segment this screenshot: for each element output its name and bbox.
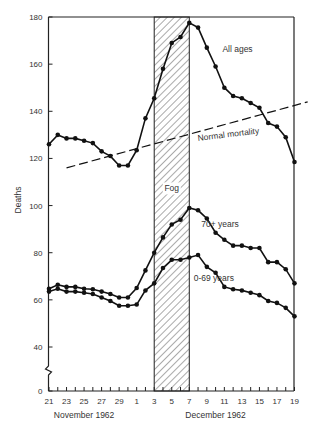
data-point — [108, 299, 113, 304]
data-point — [55, 133, 60, 138]
data-point — [169, 41, 174, 46]
data-point — [134, 148, 139, 153]
y-tick-label: 140 — [29, 107, 43, 116]
data-point — [91, 141, 96, 146]
data-point — [292, 281, 297, 286]
data-point — [292, 314, 297, 319]
data-point — [248, 246, 253, 251]
data-point — [266, 260, 271, 265]
fog-shaded-region — [154, 17, 189, 391]
x-axis-group-labels: November 1962December 1962 — [54, 410, 246, 420]
data-point — [231, 243, 236, 248]
x-tick-label: 1 — [134, 397, 139, 406]
data-point — [266, 121, 271, 126]
data-point — [73, 285, 78, 290]
x-tick-label: 9 — [205, 397, 210, 406]
fog-band — [154, 17, 189, 391]
data-point — [73, 289, 78, 294]
data-point — [275, 124, 280, 129]
data-point — [143, 288, 148, 293]
x-tick-label: 13 — [237, 397, 246, 406]
data-point — [91, 287, 96, 292]
deaths-line-chart: 0406080100120140160180 21232527291357911… — [0, 0, 314, 429]
data-point — [240, 96, 245, 101]
y-tick-label: 40 — [34, 343, 43, 352]
data-point — [47, 142, 52, 147]
data-point — [248, 101, 253, 106]
data-point — [117, 295, 122, 300]
x-tick-label: 15 — [255, 397, 264, 406]
x-tick-label: 11 — [220, 397, 229, 406]
data-point — [152, 281, 157, 286]
label-normal-mortality: Normal mortality — [197, 125, 260, 143]
label-fog: Fog — [164, 183, 179, 193]
data-point — [99, 289, 104, 294]
data-point — [275, 301, 280, 306]
left-axis-with-break — [46, 17, 52, 391]
y-tick-label: 160 — [29, 60, 43, 69]
data-point — [82, 138, 87, 143]
data-point — [64, 289, 69, 294]
y-tick-label: 100 — [29, 202, 43, 211]
x-tick-label: 23 — [62, 397, 71, 406]
data-point — [178, 257, 183, 262]
data-point — [143, 116, 148, 121]
data-point — [82, 290, 87, 295]
y-tick-label: 80 — [34, 249, 43, 258]
data-point — [187, 206, 192, 211]
data-point — [283, 267, 288, 272]
y-tick-label: 60 — [34, 296, 43, 305]
data-point — [178, 35, 183, 40]
data-point — [126, 295, 131, 300]
data-point — [248, 290, 253, 295]
x-tick-label: 27 — [97, 397, 106, 406]
label-0-69-years: 0-69 years — [194, 273, 234, 283]
data-point — [64, 285, 69, 290]
data-point — [126, 303, 131, 308]
label-70-years: 70+ years — [201, 219, 239, 229]
data-point — [213, 230, 218, 235]
y-axis-title: Deaths — [13, 187, 23, 214]
data-point — [178, 217, 183, 222]
data-point — [152, 250, 157, 255]
data-point — [99, 295, 104, 300]
data-point — [134, 302, 139, 307]
data-point — [222, 285, 227, 290]
data-point — [117, 303, 122, 308]
data-point — [152, 96, 157, 101]
data-point — [266, 299, 271, 304]
x-group-label: November 1962 — [54, 410, 115, 420]
data-point — [55, 286, 60, 291]
data-point — [161, 67, 166, 72]
data-point — [161, 266, 166, 271]
data-point — [222, 237, 227, 242]
data-point — [169, 222, 174, 227]
data-point — [47, 289, 52, 294]
data-point — [143, 268, 148, 273]
data-point — [108, 292, 113, 297]
data-point — [187, 21, 192, 26]
data-point — [99, 149, 104, 154]
data-point — [240, 243, 245, 248]
x-tick-label: 17 — [273, 397, 282, 406]
x-tick-label: 7 — [187, 397, 192, 406]
y-tick-label: 120 — [29, 154, 43, 163]
data-point — [82, 286, 87, 291]
data-point — [161, 235, 166, 240]
x-tick-label: 3 — [152, 397, 157, 406]
data-point — [73, 136, 78, 141]
data-point — [187, 255, 192, 260]
x-tick-label: 21 — [45, 397, 54, 406]
label-all-ages: All ages — [222, 44, 252, 54]
data-point — [257, 105, 262, 110]
data-point — [213, 64, 218, 69]
data-point — [257, 293, 262, 298]
data-point — [134, 286, 139, 291]
data-point — [126, 163, 131, 168]
data-point — [117, 163, 122, 168]
x-tick-label: 29 — [115, 397, 124, 406]
x-group-label: December 1962 — [185, 410, 246, 420]
data-point — [275, 260, 280, 265]
x-axis: 2123252729135791113151719 — [45, 387, 300, 406]
y-tick-label: 180 — [29, 13, 43, 22]
